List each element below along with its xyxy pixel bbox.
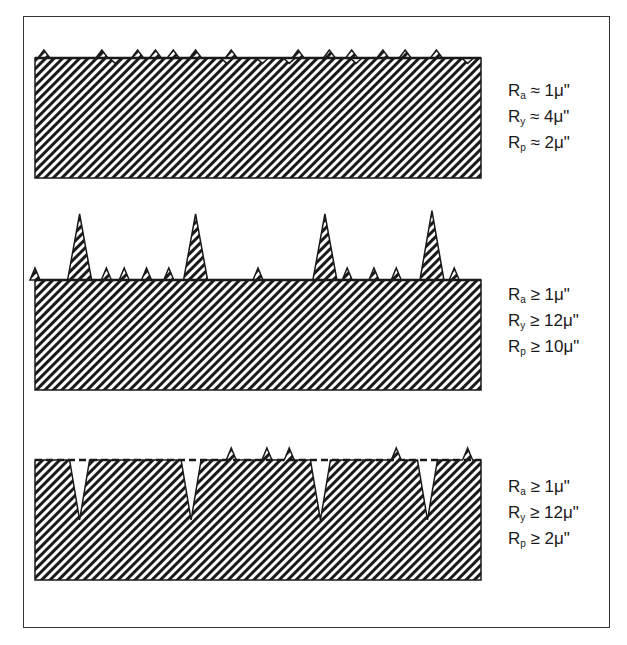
- parameter-label-Ry: Ry ≥ 12μ": [508, 502, 579, 528]
- parameter-label-Ry: Ry ≥ 12μ": [508, 310, 579, 336]
- hatched-material-section: [35, 50, 481, 178]
- parameter-label-Ry: Ry ≈ 4μ": [508, 106, 570, 132]
- parameter-label-Rp: Rp ≥ 2μ": [508, 528, 579, 554]
- panel-2-labels: Ra ≥ 1μ"Ry ≥ 12μ"Rp ≥ 10μ": [508, 284, 579, 362]
- parameter-label-Ra: Ra ≈ 1μ": [508, 80, 570, 106]
- panel-1-labels: Ra ≈ 1μ"Ry ≈ 4μ"Rp ≈ 2μ": [508, 80, 570, 158]
- parameter-label-Ra: Ra ≥ 1μ": [508, 284, 579, 310]
- profile-panel-2: [30, 211, 481, 390]
- hatched-material-section: [35, 448, 481, 580]
- parameter-label-Ra: Ra ≥ 1μ": [508, 476, 579, 502]
- parameter-label-Rp: Rp ≈ 2μ": [508, 132, 570, 158]
- profile-panel-3: [35, 448, 481, 580]
- hatched-material-section: [30, 211, 481, 390]
- panel-3-labels: Ra ≥ 1μ"Ry ≥ 12μ"Rp ≥ 2μ": [508, 476, 579, 554]
- parameter-label-Rp: Rp ≥ 10μ": [508, 336, 579, 362]
- profile-panel-1: [35, 50, 481, 178]
